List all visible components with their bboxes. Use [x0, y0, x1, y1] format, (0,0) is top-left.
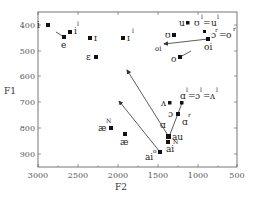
marker-U	[172, 33, 176, 37]
marker-o	[178, 55, 182, 59]
label-U-eq: ʊ	[194, 18, 200, 28]
y-tick-600: 600	[20, 72, 35, 81]
marker-u	[186, 21, 190, 25]
label-i: i	[37, 20, 40, 30]
y-axis-label: F1	[4, 86, 16, 96]
label-a: ɑ	[160, 120, 166, 130]
label-A-l-sup: l	[216, 86, 218, 93]
marker-ai-o	[158, 150, 162, 154]
marker-ae-N	[109, 126, 113, 130]
label-ae-N: æ	[98, 123, 106, 133]
marker-a-l	[180, 101, 184, 105]
x-tick-1500: 1500	[148, 171, 168, 180]
label-eps: ε	[86, 52, 91, 62]
plot-frame	[38, 12, 237, 167]
marker-au	[166, 134, 171, 139]
label-i-l: i	[74, 26, 77, 36]
label-a-r: ɑ	[182, 117, 188, 127]
x-axis-label: F2	[115, 182, 127, 192]
y-tick-500: 500	[20, 47, 35, 56]
x-axis	[38, 12, 237, 167]
label-ai-o-sup: o	[153, 147, 157, 154]
label-ai-sup: N	[173, 138, 178, 145]
label-I-l-sup: l	[132, 27, 134, 34]
vowel-labels: i e i l ɪ ɪ l ε u ʊ l = u l ʊ ɔ r = o r …	[37, 13, 236, 162]
label-eq1: =	[203, 18, 211, 28]
label-u-l-sup: l	[217, 13, 219, 20]
label-ae-N-sup: N	[106, 117, 111, 124]
label-ae: æ	[120, 137, 128, 147]
oi-arrow	[164, 39, 208, 44]
label-i-l-sup: l	[77, 20, 79, 27]
label-o-l-sup: r	[233, 25, 236, 32]
marker-i	[46, 23, 50, 27]
marker-i-l	[68, 30, 72, 34]
label-oo2-sup: l	[200, 86, 202, 93]
label-ai: ai	[166, 144, 174, 154]
marker-oo	[176, 112, 180, 116]
x-tick-2500: 2500	[68, 171, 88, 180]
label-U: ʊ	[165, 30, 171, 40]
x-tick-3000: 3000	[28, 171, 48, 180]
label-o-l: o	[226, 30, 231, 40]
y-tick-800: 800	[20, 124, 35, 133]
y-tick-900: 900	[20, 150, 35, 159]
marker-U-l	[203, 30, 206, 33]
label-I-l: ɪ	[127, 33, 130, 43]
marker-ae	[123, 132, 127, 136]
label-oi: oi	[204, 42, 212, 52]
label-o: o	[171, 54, 176, 64]
marker-I-l	[121, 36, 125, 40]
marker-eps	[94, 55, 98, 59]
marker-I	[88, 36, 92, 40]
label-oi-arrow: oi	[155, 45, 162, 53]
x-tick-500: 500	[229, 171, 244, 180]
x-tick-2000: 2000	[108, 171, 128, 180]
y-tick-labels: 400 500 600 700 800 900	[20, 21, 35, 159]
label-A: ʌ	[160, 98, 167, 108]
label-I: ɪ	[94, 33, 97, 43]
label-A-l: ʌ	[209, 91, 216, 101]
marker-e	[62, 35, 66, 39]
y-tick-400: 400	[20, 21, 35, 30]
marker-A	[168, 101, 172, 105]
label-u: u	[179, 18, 185, 28]
marker-oi	[206, 37, 210, 41]
label-oo: ɔ	[168, 109, 173, 119]
label-a-r-sup: r	[188, 111, 191, 118]
label-oo-eq-sup: r	[215, 26, 218, 33]
y-tick-700: 700	[20, 98, 35, 107]
x-tick-1000: 1000	[188, 171, 208, 180]
vowel-formant-chart: 3000 2500 2000 1500 1000 500 F2 400 500 …	[0, 0, 255, 200]
x-tick-labels: 3000 2500 2000 1500 1000 500	[28, 171, 245, 180]
label-e: e	[61, 40, 66, 50]
